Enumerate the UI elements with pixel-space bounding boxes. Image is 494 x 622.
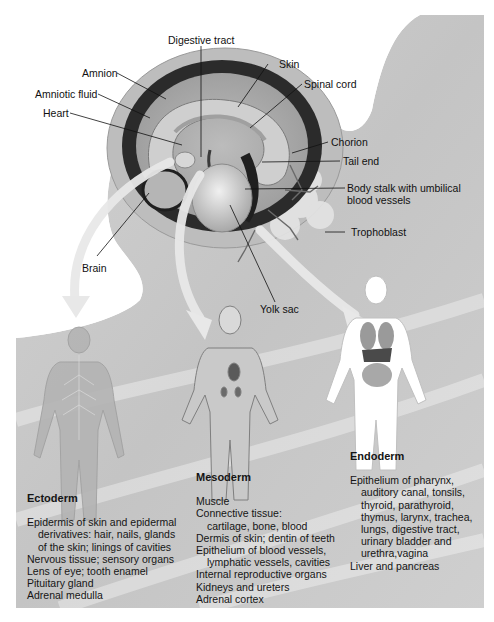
ectoderm-item: derivatives: hair, nails, glands [27, 528, 176, 540]
ectoderm-item: of the skin; linings of cavities [27, 541, 176, 553]
label-yolk-sac: Yolk sac [260, 303, 299, 315]
label-trophoblast: Trophoblast [351, 226, 406, 238]
label-amnion: Amnion [82, 67, 118, 79]
label-body-stalk: Body stalk with umbilical blood vessels [347, 182, 461, 206]
label-digestive-tract: Digestive tract [168, 34, 235, 46]
endoderm-item: auditory canal, tonsils, [350, 486, 472, 498]
label-spinal-cord: Spinal cord [304, 78, 357, 90]
mesoderm-item: lymphatic vessels, cavities [196, 556, 335, 568]
mesoderm-title: Mesoderm [196, 471, 335, 483]
ectoderm-block: Ectoderm Epidermis of skin and epidermal… [27, 492, 176, 602]
ectoderm-item: Nervous tissue; sensory organs [27, 553, 176, 565]
mesoderm-item: Epithelium of blood vessels, [196, 544, 335, 556]
ectoderm-item: Epidermis of skin and epidermal [27, 516, 176, 528]
ectoderm-item: Lens of eye; tooth enamel [27, 565, 176, 577]
endoderm-item: thyroid, parathyroid, [350, 499, 472, 511]
mesoderm-item: Muscle [196, 495, 335, 507]
endoderm-item: urinary bladder and [350, 535, 472, 547]
endoderm-item: Liver and pancreas [350, 560, 472, 572]
mesoderm-item: cartilage, bone, blood [196, 520, 335, 532]
label-brain: Brain [82, 262, 107, 274]
ectoderm-title: Ectoderm [27, 492, 176, 504]
endoderm-block: Endoderm Epithelium of pharynx, auditory… [350, 450, 472, 572]
mesoderm-block: Mesoderm Muscle Connective tissue: carti… [196, 471, 335, 605]
endoderm-item: urethra,vagina [350, 547, 472, 559]
label-body-stalk-line1: Body stalk with umbilical [347, 182, 461, 194]
label-tail-end: Tail end [343, 155, 379, 167]
endoderm-item: Epithelium of pharynx, [350, 474, 472, 486]
mesoderm-item: Internal reproductive organs [196, 568, 335, 580]
endoderm-item: thymus, larynx, trachea, [350, 511, 472, 523]
ectoderm-item: Adrenal medulla [27, 589, 176, 601]
mesoderm-item: Dermis of skin; dentin of teeth [196, 532, 335, 544]
endoderm-item: lungs, digestive tract, [350, 523, 472, 535]
mesoderm-item: Adrenal cortex [196, 593, 335, 605]
label-body-stalk-line2: blood vessels [347, 194, 461, 206]
label-chorion: Chorion [331, 136, 368, 148]
ectoderm-item: Pituitary gland [27, 577, 176, 589]
label-skin: Skin [279, 58, 299, 70]
label-amniotic-fluid: Amniotic fluid [35, 88, 97, 100]
label-heart: Heart [43, 107, 69, 119]
mesoderm-item: Connective tissue: [196, 507, 335, 519]
endoderm-title: Endoderm [350, 450, 472, 462]
mesoderm-item: Kidneys and ureters [196, 581, 335, 593]
germ-layer-diagram: Digestive tract Amnion Skin Amniotic flu… [0, 0, 494, 622]
